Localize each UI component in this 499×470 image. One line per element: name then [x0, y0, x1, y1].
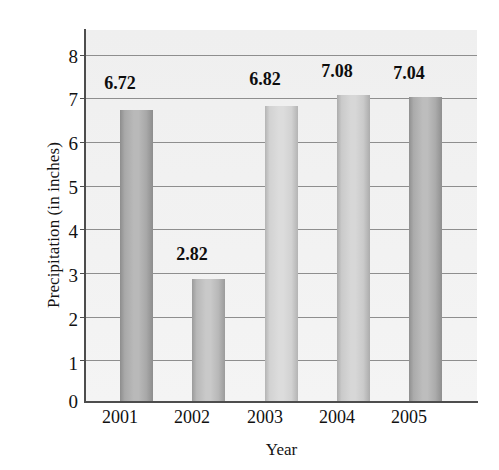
- value-label-2004: 7.08: [307, 62, 367, 80]
- bar-2004: [337, 95, 370, 401]
- y-tick-label-5: 5: [52, 178, 78, 197]
- bar-2005: [409, 97, 442, 401]
- bar-2001: [120, 110, 153, 401]
- y-tick-label-7: 7: [52, 90, 78, 109]
- y-tick-label-8: 8: [52, 47, 78, 66]
- y-axis-tick-labels: 8 7 6 5 4 3 2 1 0: [48, 0, 78, 470]
- precipitation-bar-chart: Precipitation (in inches) 8 7 6 5 4 3 2 …: [0, 0, 499, 470]
- y-tick-label-4: 4: [52, 222, 78, 241]
- x-axis-line: [84, 401, 478, 403]
- y-tick-label-1: 1: [52, 354, 78, 373]
- gridline-8: [86, 55, 477, 56]
- x-tick-label-2003: 2003: [235, 408, 295, 426]
- x-tick-label-2005: 2005: [379, 408, 439, 426]
- x-tick-label-2004: 2004: [307, 408, 367, 426]
- y-axis-line: [84, 29, 86, 403]
- value-label-2001: 6.72: [90, 74, 150, 92]
- x-tick-label-2002: 2002: [162, 408, 222, 426]
- x-tick-label-2001: 2001: [90, 408, 150, 426]
- bar-2002: [192, 279, 225, 401]
- y-tick-label-2: 2: [52, 310, 78, 329]
- x-axis-title: Year: [86, 440, 477, 460]
- y-tick-label-6: 6: [52, 134, 78, 153]
- y-tick-label-0: 0: [52, 392, 78, 411]
- value-label-2005: 7.04: [379, 64, 439, 82]
- y-tick-label-3: 3: [52, 266, 78, 285]
- value-label-2002: 2.82: [162, 245, 222, 263]
- bar-2003: [265, 106, 298, 401]
- value-label-2003: 6.82: [235, 70, 295, 88]
